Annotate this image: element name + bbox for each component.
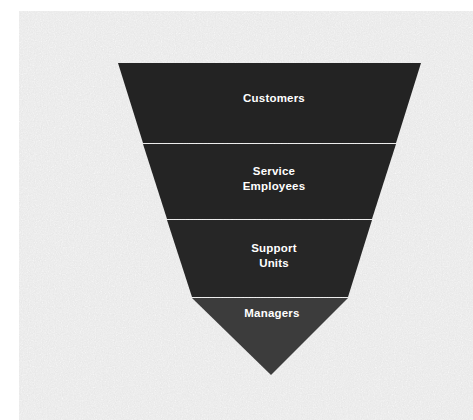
diagram-canvas: Customers Service Employees Support Unit… xyxy=(19,11,473,420)
tier-label-service-employees-line2: Employees xyxy=(243,180,306,192)
tier-label-service-employees-line1: Service xyxy=(253,165,295,177)
pyramid-tier-customers[interactable]: Customers xyxy=(118,63,421,143)
inverted-pyramid-diagram: Customers Service Employees Support Unit… xyxy=(19,11,473,420)
pyramid-tier-managers[interactable]: Managers xyxy=(192,298,348,375)
tier-label-support-units-line2: Units xyxy=(259,257,289,269)
tier-label-managers: Managers xyxy=(244,307,299,319)
tier-label-support-units-line1: Support xyxy=(251,242,296,254)
pyramid-tier-support-units[interactable]: Support Units xyxy=(167,220,372,297)
pyramid-tier-service-employees[interactable]: Service Employees xyxy=(143,144,396,219)
tier-label-customers: Customers xyxy=(243,92,305,104)
page-root: Customers Service Employees Support Unit… xyxy=(0,0,473,420)
